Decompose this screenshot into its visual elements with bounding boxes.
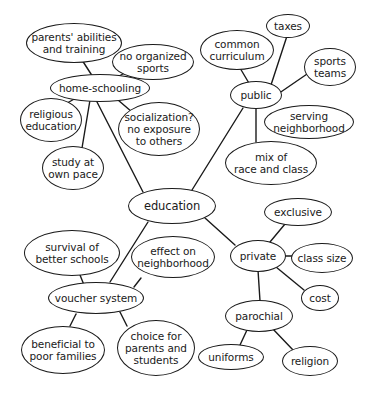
edge-private-cost — [276, 267, 304, 290]
node-socialization: socialization? no exposure to others — [118, 102, 200, 156]
edge-parochial-uniforms — [240, 330, 247, 345]
node-serving-neighborhood: serving neighborhood — [264, 105, 354, 139]
node-exclusive: exclusive — [264, 198, 332, 226]
edge-voucher-effect — [134, 278, 141, 287]
node-beneficial-poor-families: beneficial to poor families — [21, 326, 105, 374]
node-parochial: parochial — [225, 300, 293, 332]
edge-homeschool-study — [82, 100, 90, 148]
node-voucher-system: voucher system — [48, 282, 144, 314]
node-education: education — [128, 188, 216, 224]
node-study-own-pace: study at own pace — [42, 146, 104, 190]
node-uniforms: uniforms — [198, 344, 264, 370]
edge-parochial-religion — [272, 328, 293, 350]
node-home-schooling: home-schooling — [50, 74, 150, 102]
node-mix-race-class: mix of race and class — [225, 141, 317, 185]
edge-education-private — [205, 218, 235, 245]
node-religion: religion — [282, 346, 338, 376]
node-class-size: class size — [291, 243, 353, 273]
edge-private-exclusive — [270, 224, 285, 242]
node-common-curriculum: common curriculum — [200, 30, 274, 70]
edge-voucher-beneficial — [70, 314, 76, 326]
node-religious-education: religious education — [20, 98, 82, 142]
node-survival-better-schools: survival of better schools — [24, 230, 120, 276]
node-no-organized-sports: no organized sports — [112, 44, 194, 80]
node-public: public — [230, 81, 282, 109]
node-sports-teams: sports teams — [304, 48, 356, 86]
node-parents-abilities: parents' abilities and training — [26, 23, 122, 63]
node-effect-neighborhood: effect on neighborhood — [131, 236, 215, 278]
edge-private-parochial — [258, 270, 260, 301]
edge-voucher-choice — [120, 312, 127, 326]
node-choice-parents-students: choice for parents and students — [117, 320, 195, 376]
concept-map: parents' abilities and training no organ… — [0, 0, 373, 397]
node-taxes: taxes — [266, 14, 310, 38]
node-private: private — [230, 240, 286, 272]
node-cost: cost — [301, 285, 339, 311]
